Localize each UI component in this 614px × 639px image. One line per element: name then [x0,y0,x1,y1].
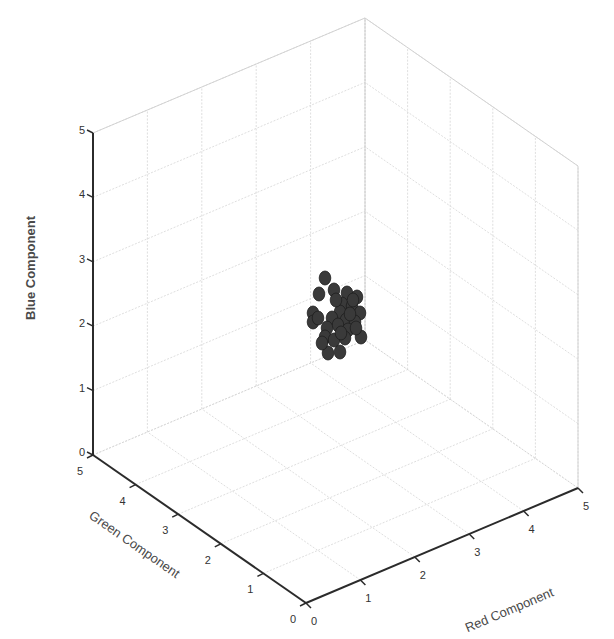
y-tick-label: 1 [247,583,253,595]
y-tick-label: 2 [205,554,211,566]
data-point-marker [350,321,362,335]
data-point-marker [344,307,356,321]
data-point-marker [347,293,359,307]
scatter-3d-plot: 012345012345012345 Blue Component Green … [0,0,614,639]
x-tick-label: 4 [529,523,535,535]
data-point-marker [313,287,325,301]
axis-ticks [87,130,583,608]
box-edges [93,18,578,488]
z-tick-label: 0 [79,446,85,458]
x-tick-label: 3 [474,546,480,558]
x-tick-label: 5 [583,500,589,512]
z-tick-label: 4 [79,188,85,200]
data-point-marker [319,271,331,285]
data-point-marker [335,326,347,340]
x-tick-label: 2 [420,569,426,581]
z-axis-title: Blue Component [23,215,38,320]
y-tick-label: 4 [120,495,126,507]
data-point-marker [312,311,324,325]
data-point-marker [330,293,342,307]
z-tick-label: 5 [79,124,85,136]
y-tick-label: 3 [162,524,168,536]
y-tick-label: 5 [77,465,83,477]
data-point-marker [334,345,346,359]
data-point-marker [316,336,328,350]
x-axis-title: Red Component [463,584,556,635]
x-tick-label: 1 [365,592,371,604]
data-markers [307,271,367,360]
z-tick-label: 1 [79,382,85,394]
z-tick-label: 2 [79,317,85,329]
y-axis-title: Green Component [86,508,183,582]
y-tick-label: 0 [290,613,296,625]
z-tick-label: 3 [79,253,85,265]
x-tick-label: 0 [311,615,317,627]
